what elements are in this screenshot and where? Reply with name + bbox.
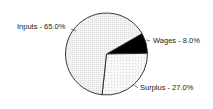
wages-leader-line	[146, 40, 150, 41]
pie-chart	[0, 0, 213, 109]
pie-slices	[66, 13, 148, 95]
surplus-label: Surplus - 27.0%	[140, 84, 193, 92]
inputs-label: Inputs - 65.0%	[17, 23, 65, 31]
wages-label: Wages - 8.0%	[153, 37, 200, 45]
surplus-leader-line	[134, 85, 138, 88]
